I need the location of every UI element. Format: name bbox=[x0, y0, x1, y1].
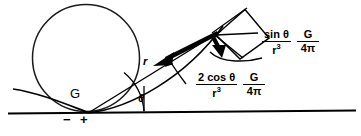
leader-line-radial bbox=[170, 61, 186, 84]
radial-constant-numerator: G bbox=[248, 72, 261, 84]
transverse-numerator: sin θ bbox=[262, 29, 291, 41]
radial-constant-fraction: G 4π bbox=[243, 72, 265, 97]
negative-charge-label: − bbox=[63, 112, 71, 127]
dipole-label: G bbox=[70, 86, 80, 101]
dipole-field-diagram: G − + r θ sin θ r3 G 4π 2 cos θ r3 G 4π bbox=[0, 0, 361, 136]
leader-line-transverse bbox=[210, 52, 262, 61]
transverse-main-fraction: sin θ r3 bbox=[262, 29, 291, 56]
positive-charge-label: + bbox=[80, 112, 88, 127]
transverse-denominator: r3 bbox=[270, 42, 282, 56]
transverse-component-formula: sin θ r3 G 4π bbox=[262, 29, 319, 56]
radial-numerator: 2 cos θ bbox=[196, 72, 237, 84]
transverse-constant-denominator: 4π bbox=[299, 42, 318, 54]
radial-constant-denominator: 4π bbox=[245, 85, 264, 97]
radial-main-fraction: 2 cos θ r3 bbox=[196, 72, 237, 99]
transverse-constant-fraction: G 4π bbox=[297, 29, 319, 54]
angle-label: θ bbox=[138, 92, 144, 104]
radial-field-vector-shaft bbox=[166, 33, 218, 59]
radius-label: r bbox=[143, 55, 147, 67]
ground-line bbox=[8, 111, 356, 114]
radial-component-formula: 2 cos θ r3 G 4π bbox=[196, 72, 265, 99]
radial-denominator: r3 bbox=[210, 85, 222, 99]
parallelogram-diagonal bbox=[216, 33, 258, 35]
field-circle bbox=[33, 5, 140, 112]
construction-ray bbox=[212, 8, 247, 33]
diagram-canvas bbox=[0, 0, 361, 136]
transverse-constant-numerator: G bbox=[302, 29, 315, 41]
